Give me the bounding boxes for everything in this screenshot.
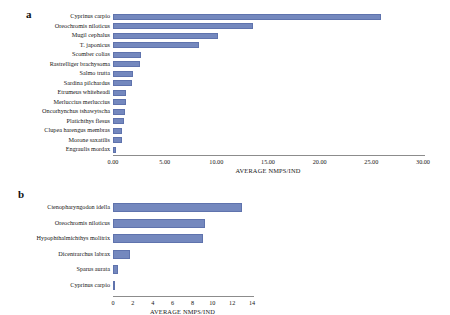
x-tick-label: 8 (191, 299, 194, 306)
x-axis-line (113, 155, 425, 156)
x-tick-label: 4 (151, 299, 154, 306)
x-tick-label: 6 (171, 299, 174, 306)
category-label: Platichthys flesus (67, 118, 110, 124)
x-tick-label: 30.00 (416, 158, 430, 165)
bar (113, 71, 133, 77)
category-label: Sardina pilchardus (64, 80, 110, 86)
category-label: Scomber colias (72, 51, 110, 57)
bar (113, 147, 116, 153)
category-label: Oncorhynchus tshawytscha (42, 108, 110, 114)
bar (113, 109, 125, 115)
x-axis-title: AVERAGE NMPS/IND (235, 167, 300, 174)
category-label: Dicentrarchus labrax (58, 251, 110, 257)
x-tick-label: 15.00 (261, 158, 275, 165)
category-label: Oreochromis niloticus (55, 23, 110, 29)
category-label: Oreochromis niloticus (55, 220, 110, 226)
category-label: Engraulis mordax (66, 146, 110, 152)
category-label: Clupea harengus membras (44, 127, 110, 133)
bar (113, 52, 141, 58)
panel-b-letter: b (18, 188, 24, 200)
bar (113, 99, 126, 105)
category-label: Morone saxatilis (69, 137, 110, 143)
x-axis-title: AVERAGE NMPS/IND (150, 308, 215, 315)
bar (113, 118, 124, 124)
category-label: Salmo trutta (80, 70, 110, 76)
bar (113, 33, 218, 39)
category-label: Sparus aurata (76, 266, 110, 272)
bar (113, 128, 122, 134)
bar (113, 203, 242, 212)
bar (113, 61, 140, 67)
bar (113, 234, 203, 243)
bar (113, 42, 199, 48)
category-label: Etrumeus whiteheadi (58, 89, 110, 95)
x-tick-label: 14 (249, 299, 255, 306)
bar (113, 23, 253, 29)
category-label: T. japonicus (80, 42, 110, 48)
bar (113, 90, 126, 96)
bar (113, 219, 205, 228)
category-label: Cyprinus carpio (70, 282, 110, 288)
chart-panel-a: a Cyprinus carpioOreochromis niloticusMu… (0, 0, 450, 180)
bar (113, 281, 115, 290)
category-label: Ctenopharyngodon idella (47, 204, 110, 210)
chart-panel-b: b Ctenopharyngodon idellaOreochromis nil… (0, 180, 450, 309)
bar (113, 250, 130, 259)
panel-a-letter: a (26, 8, 32, 20)
x-tick-label: 10 (209, 299, 215, 306)
category-label: Cyprinus carpio (70, 13, 110, 19)
bar (113, 137, 122, 143)
category-label: Merluccius merluccius (53, 99, 110, 105)
x-tick-label: 25.00 (364, 158, 378, 165)
x-axis-line (113, 296, 254, 297)
x-tick-label: 12 (229, 299, 235, 306)
category-label: Hypophthalmichthys molitrix (37, 235, 110, 241)
category-label: Rastrelliger brachysoma (50, 61, 110, 67)
x-tick-label: 20.00 (313, 158, 327, 165)
x-tick-label: 0.00 (108, 158, 119, 165)
x-tick-label: 10.00 (209, 158, 223, 165)
bar (113, 80, 132, 86)
bar (113, 265, 118, 274)
category-label: Mugil cephalus (72, 32, 110, 38)
bar (113, 14, 381, 20)
x-tick-label: 2 (131, 299, 134, 306)
x-tick-label: 0 (111, 299, 114, 306)
x-tick-label: 5.00 (159, 158, 170, 165)
